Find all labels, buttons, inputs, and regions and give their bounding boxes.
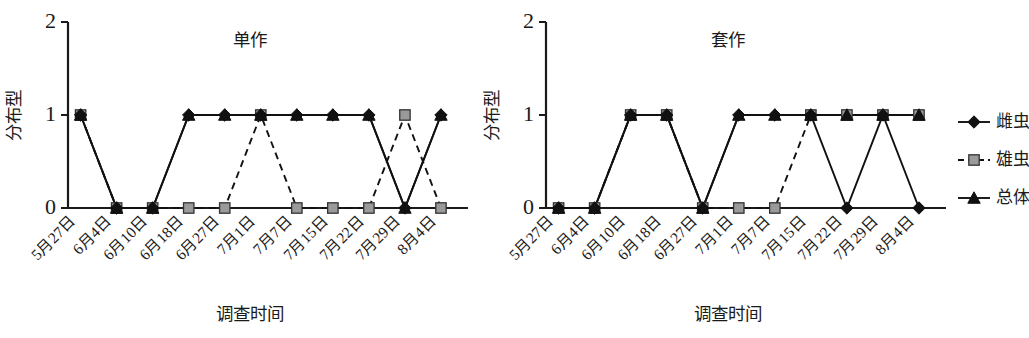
marker-diamond [913, 202, 925, 214]
panel-title: 单作 [233, 30, 267, 50]
panel-title: 套作 [711, 30, 745, 50]
legend: 雌虫雄虫总体 [956, 0, 1029, 338]
marker-square [400, 110, 410, 120]
marker-square [364, 203, 374, 213]
marker-diamond [841, 202, 853, 214]
series-markers-雌虫 [552, 109, 925, 214]
y-axis-title: 分布型 [482, 90, 502, 141]
series-markers-总体 [74, 109, 447, 213]
chart-svg-right: 分布型0125月27日6月4日6月10日6月18日6月27日7月1日7月7日7月… [478, 0, 956, 338]
chart-svg-left: 分布型0125月27日6月4日6月10日6月18日6月27日7月1日7月7日7月… [0, 0, 478, 338]
x-axis-title: 调查时间 [694, 304, 762, 324]
legend-label-雄虫: 雄虫 [996, 150, 1029, 169]
x-axis-title: 调查时间 [216, 304, 284, 324]
x-tick-label: 8月4日 [871, 212, 917, 258]
x-tick-label: 8月4日 [393, 212, 439, 258]
y-tick-label: 2 [45, 8, 56, 33]
marker-square [220, 203, 230, 213]
x-tick-label: 5月27日 [506, 212, 557, 263]
marker-square [969, 155, 979, 165]
legend-svg: 雌虫雄虫总体 [956, 0, 1029, 338]
legend-label-总体: 总体 [996, 188, 1029, 207]
legend-item-雄虫[interactable]: 雄虫 [958, 150, 1029, 169]
y-tick-label: 0 [45, 194, 56, 219]
chart-panel-right: 分布型0125月27日6月4日6月10日6月18日6月27日7月1日7月7日7月… [478, 0, 956, 338]
series-markers-雄虫 [553, 110, 924, 213]
x-tick-label: 7月1日 [213, 212, 259, 258]
x-tick-label: 5月27日 [28, 212, 79, 263]
marker-square [770, 203, 780, 213]
series-line-雌虫 [559, 115, 919, 208]
x-tick-label: 7月1日 [691, 212, 737, 258]
y-tick-label: 0 [523, 194, 534, 219]
marker-square [292, 203, 302, 213]
marker-diamond [968, 116, 980, 128]
y-tick-label: 1 [45, 101, 56, 126]
marker-square [734, 203, 744, 213]
series-markers-雄虫 [75, 110, 446, 213]
series-markers-总体 [552, 109, 925, 213]
y-tick-label: 1 [523, 101, 534, 126]
legend-label-雌虫: 雌虫 [996, 112, 1029, 131]
legend-item-雌虫[interactable]: 雌虫 [958, 112, 1029, 131]
y-axis-title: 分布型 [4, 90, 24, 141]
marker-square [436, 203, 446, 213]
series-markers-雌虫 [74, 109, 447, 214]
marker-square [184, 203, 194, 213]
chart-panel-left: 分布型0125月27日6月4日6月10日6月18日6月27日7月1日7月7日7月… [0, 0, 478, 338]
y-tick-label: 2 [523, 8, 534, 33]
legend-item-总体[interactable]: 总体 [958, 188, 1029, 207]
series-line-雌虫 [81, 115, 441, 208]
marker-square [328, 203, 338, 213]
figure-root: 分布型0125月27日6月4日6月10日6月18日6月27日7月1日7月7日7月… [0, 0, 1029, 338]
